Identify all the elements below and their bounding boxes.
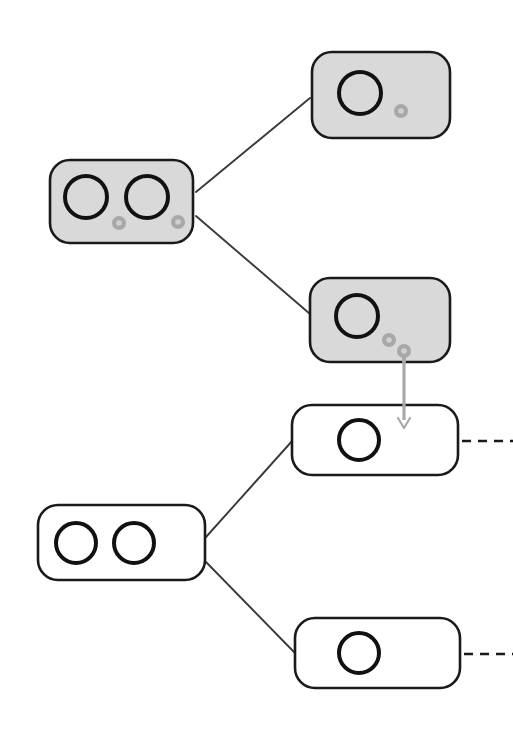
- plain-child-top-node[interactable]: [292, 405, 458, 475]
- plain-child-top-node-body[interactable]: [292, 405, 458, 475]
- marker-dot-hole-icon: [398, 108, 404, 114]
- shaded-child-bottom-node[interactable]: [310, 278, 450, 362]
- shaded-child-bottom-node-body[interactable]: [310, 278, 450, 362]
- shaded-child-top-node[interactable]: [312, 52, 450, 138]
- shaded-parent-node-body[interactable]: [50, 160, 193, 243]
- edge-shaded-parent-to-bottom-child: [196, 216, 310, 314]
- edge-plain-parent-to-top-child: [206, 440, 293, 537]
- edge-shaded-parent-to-top-child: [196, 98, 310, 192]
- marker-dot-hole-icon: [401, 348, 407, 354]
- diagram-canvas: [0, 0, 513, 742]
- plain-child-bottom-node[interactable]: [295, 618, 460, 688]
- edge-plain-parent-to-bottom-child: [206, 562, 294, 652]
- plain-parent-node-body[interactable]: [38, 505, 205, 580]
- shaded-parent-node[interactable]: [50, 160, 193, 243]
- diagram-svg: [0, 0, 513, 742]
- marker-dot-hole-icon: [116, 220, 122, 226]
- plain-parent-node[interactable]: [38, 505, 205, 580]
- marker-dot-hole-icon: [175, 219, 181, 225]
- dashed-links-layer: [462, 441, 513, 654]
- marker-dot-hole-icon: [386, 337, 392, 343]
- edges-layer: [196, 98, 310, 652]
